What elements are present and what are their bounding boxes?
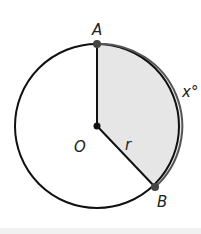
label-O: O	[74, 138, 86, 156]
point-B	[151, 183, 159, 191]
label-B: B	[157, 193, 167, 211]
center-point-O	[94, 123, 101, 130]
label-arc-x-degrees: x°	[181, 83, 198, 101]
label-r: r	[125, 136, 132, 154]
footer-band	[0, 228, 201, 234]
point-A	[93, 40, 101, 48]
circle-sector-diagram: A B O r x°	[0, 0, 201, 234]
label-A: A	[91, 21, 102, 39]
